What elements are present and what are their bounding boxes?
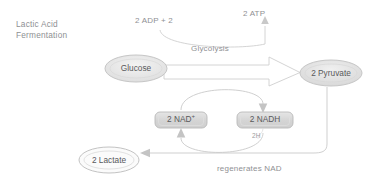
atp-label: 2 ATP: [243, 8, 265, 19]
diagram-canvas: Lactic Acid Fermentation 2 ADP + 2 2 ATP…: [0, 0, 379, 188]
protons-label: 2H: [252, 130, 261, 141]
nad-plus-label-base: 2 NAD: [167, 114, 191, 124]
regenerates-nad-label: regenerates NAD: [217, 163, 282, 174]
diagram-title: Lactic Acid Fermentation: [16, 19, 67, 41]
glycolysis-label: Glycolysis: [191, 43, 229, 54]
nad-plus-label: 2 NAD+: [155, 114, 207, 124]
pyruvate-label: 2 Pyruvate: [298, 68, 364, 78]
glucose-label: Glucose: [108, 63, 164, 73]
adp-label: 2 ADP + 2: [135, 15, 173, 26]
lactate-label: 2 Lactate: [80, 155, 138, 165]
nadh-label: 2 NADH: [237, 114, 293, 124]
glycolysis-block-arrow: [164, 57, 300, 86]
lactate-arrowhead: [140, 149, 150, 157]
nad-arrowhead: [177, 128, 186, 138]
nad-plus-superscript: +: [191, 113, 195, 119]
